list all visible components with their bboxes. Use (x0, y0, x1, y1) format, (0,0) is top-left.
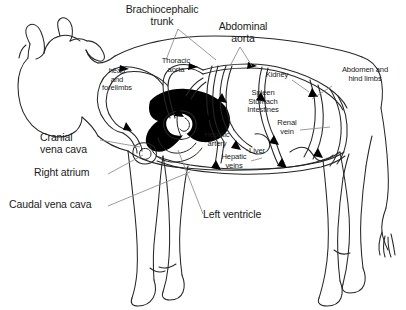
leader-abdominal-aorta-left (230, 47, 240, 66)
cow-front-leg-near (128, 151, 137, 298)
cow-tail-tuft (379, 232, 395, 257)
cow-muzzle-outline (18, 58, 52, 136)
label-liver: Liver (243, 147, 271, 156)
cow-hind-leg-near (319, 160, 328, 298)
label-caudal-vena-cava: Caudal vena cava (9, 199, 119, 211)
leader-renal-vein (300, 127, 330, 130)
label-cranial-vena-cava: Cranial vena cava (40, 132, 110, 156)
label-abdominal-aorta: Abdominal aorta (208, 21, 278, 45)
cow-tail (381, 108, 388, 208)
label-left-ventricle: Left ventricle (203, 209, 295, 221)
right-atrium-inner (139, 148, 151, 159)
label-right-atrium: Right atrium (34, 167, 118, 179)
leader-abdominal-aorta-right (240, 47, 252, 66)
head-forelimbs-return (123, 133, 134, 145)
label-renal-vein: Renal vein (270, 119, 304, 136)
cow-ear (86, 41, 104, 61)
leader-caudal-vena-cava (108, 172, 190, 206)
label-hepatic-artery: Hepatic artery (196, 131, 238, 148)
label-spleen-stomach-intestines: Spleen Stomach Intestines (241, 89, 285, 115)
label-thoracic-aorta: Thoracic aorta (152, 57, 200, 74)
cow-horn-left (58, 18, 73, 41)
label-brachiocephalic-trunk: Brachiocephalic trunk (112, 4, 212, 28)
label-kidney: Kidney (256, 71, 298, 80)
label-hepatic-veins: Hepatic veins (214, 153, 254, 170)
label-head-and-forelimbs: head and forelimbs (96, 67, 138, 93)
circulatory-diagram-figure: Brachiocephalic trunk Abdominal aorta Th… (0, 0, 406, 310)
label-abdomen-and-hind-limbs: Abdomen and hind limbs (330, 66, 400, 83)
